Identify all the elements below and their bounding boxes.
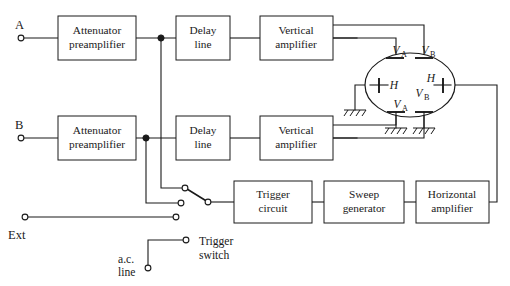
label-trigger-switch-1: Trigger [199,235,233,248]
terminal-ac-line-contact[interactable] [183,237,189,243]
block-label-line2: preamplifier [69,138,125,150]
terminal-input-b[interactable] [18,135,24,141]
block-vertical-amplifier-a[interactable]: Vertical amplifier [260,16,333,60]
label-ext: Ext [8,228,26,242]
terminal-ac-line[interactable] [145,265,151,271]
terminal-input-a[interactable] [18,35,24,41]
terminal-ext-left[interactable] [22,214,28,220]
block-label-line2: amplifier [275,38,317,50]
block-label-line1: Horizontal [428,188,476,200]
label-input-a: A [15,18,24,32]
label-input-b: B [15,118,23,132]
block-attenuator-preamplifier-b[interactable]: Attenuator preamplifier [58,116,136,160]
plate-subscript: A [401,50,407,59]
block-label-line2: generator [343,202,386,214]
switch-contact-common[interactable] [205,199,211,205]
block-label-line2: amplifier [431,202,473,214]
plate-symbol: H [389,79,399,91]
switch-contact-internal-a[interactable] [182,185,188,191]
block-label-line2: amplifier [275,138,317,150]
block-horizontal-amplifier[interactable]: Horizontal amplifier [416,181,489,223]
plate-subscript: B [430,50,436,59]
ground-symbol-left [344,110,366,116]
block-trigger-circuit[interactable]: Trigger circuit [234,181,312,223]
block-label-line1: Delay [190,124,217,136]
diagram-canvas: Attenuator preamplifier Delay line Verti… [0,0,510,286]
block-delay-line-b[interactable]: Delay line [176,116,230,160]
block-label-line2: preamplifier [69,38,125,50]
plate-subscript: A [402,104,408,113]
block-label-line1: Sweep [349,188,379,200]
trigger-switch-blade[interactable] [187,189,208,202]
junction-dot-channel-a [158,35,164,41]
block-vertical-amplifier-b[interactable]: Vertical amplifier [260,116,333,160]
block-label-line1: Vertical [278,24,313,36]
block-attenuator-preamplifier-a[interactable]: Attenuator preamplifier [58,16,136,60]
junction-dot-channel-b [143,135,149,141]
block-label-line2: line [195,138,212,150]
block-label-line1: Delay [190,24,217,36]
terminal-ext-right[interactable] [173,214,179,220]
ac-line-wire [148,240,186,268]
switch-contact-internal-b[interactable] [178,200,184,206]
block-delay-line-a[interactable]: Delay line [176,16,230,60]
vamp-a-to-va-plate-wire [333,38,396,58]
oscilloscope-block-diagram: Attenuator preamplifier Delay line Verti… [0,0,510,286]
block-label-line2: line [195,38,212,50]
label-trigger-switch-2: switch [199,249,229,262]
block-sweep-generator[interactable]: Sweep generator [324,181,404,223]
block-label-line1: Attenuator [73,24,122,36]
block-label-line1: Trigger [256,188,290,200]
block-label-line2: circuit [259,202,289,214]
plate-subscript: B [424,93,430,102]
label-ac-line-1: a.c. [118,253,134,266]
label-ac-line-2: line [118,266,135,279]
plate-symbol: H [426,72,436,84]
block-label-line1: Attenuator [73,124,122,136]
block-label-line1: Vertical [278,124,313,136]
